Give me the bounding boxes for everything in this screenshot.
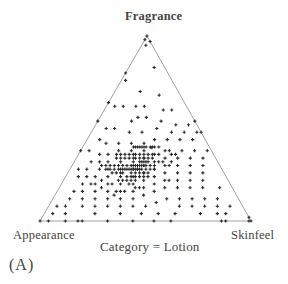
data-point-marker [216, 212, 219, 215]
data-point-marker [77, 168, 80, 171]
data-point-marker [134, 186, 137, 189]
data-point-marker [201, 171, 204, 174]
data-point-marker [104, 142, 107, 145]
data-point-marker [113, 168, 116, 171]
data-point-marker [155, 127, 158, 130]
data-point-marker [134, 145, 137, 148]
data-point-marker [149, 40, 152, 43]
data-point-marker [170, 153, 173, 156]
data-point-marker [157, 212, 160, 215]
data-point-marker [139, 90, 142, 93]
data-point-marker [125, 164, 128, 167]
data-point-marker [174, 153, 177, 156]
data-point-marker [165, 197, 168, 200]
data-point-marker [119, 153, 122, 156]
data-point-marker [106, 219, 109, 222]
data-point-marker [157, 153, 160, 156]
data-point-marker [176, 157, 179, 160]
data-point-marker [144, 205, 147, 208]
data-point-marker [119, 182, 122, 185]
data-point-marker [142, 171, 145, 174]
data-point-marker [224, 212, 227, 215]
data-point-marker [163, 186, 166, 189]
data-point-marker [119, 175, 122, 178]
data-point-marker [104, 168, 107, 171]
data-point-marker [130, 171, 133, 174]
data-point-marker [162, 108, 165, 111]
data-point-marker [64, 219, 67, 222]
data-point-marker [132, 153, 135, 156]
data-point-marker [100, 179, 103, 182]
data-point-marker [115, 153, 118, 156]
data-point-marker [108, 168, 111, 171]
data-point-marker [166, 138, 169, 141]
data-point-marker [94, 190, 97, 193]
data-point-marker [81, 219, 84, 222]
data-point-marker [106, 197, 109, 200]
data-point-marker [224, 219, 227, 222]
data-point-marker [146, 171, 149, 174]
data-point-marker [220, 219, 223, 222]
data-point-marker [201, 164, 204, 167]
data-point-marker [190, 205, 193, 208]
data-point-marker [124, 71, 127, 74]
data-point-marker [138, 171, 141, 174]
data-point-marker [90, 160, 93, 163]
data-point-marker [112, 194, 115, 197]
data-point-marker [131, 219, 134, 222]
data-point-marker [147, 153, 150, 156]
data-point-marker [85, 175, 88, 178]
data-point-marker [119, 157, 122, 160]
data-point-marker [140, 212, 143, 215]
data-point-marker [189, 179, 192, 182]
data-point-marker [228, 205, 231, 208]
data-point-marker [131, 197, 134, 200]
data-point-marker [127, 182, 130, 185]
data-point-marker [153, 160, 156, 163]
data-point-marker [128, 157, 131, 160]
data-point-marker [145, 116, 148, 119]
data-point-marker [107, 101, 110, 104]
data-point-marker [125, 175, 128, 178]
data-point-marker [64, 212, 67, 215]
data-point-marker [199, 131, 202, 134]
data-point-marker [138, 168, 141, 171]
data-point-marker [178, 138, 181, 141]
data-point-marker [142, 149, 145, 152]
data-point-marker [218, 186, 221, 189]
data-point-marker [98, 160, 101, 163]
data-point-marker [191, 197, 194, 200]
data-point-marker [142, 142, 145, 145]
data-point-marker [119, 212, 122, 215]
data-point-marker [108, 164, 111, 167]
data-point-marker [106, 205, 109, 208]
data-point-marker [127, 168, 130, 171]
data-point-marker [201, 157, 204, 160]
data-point-marker [81, 205, 84, 208]
data-point-marker [138, 186, 141, 189]
data-point-marker [159, 120, 162, 123]
ternary-plot [0, 0, 288, 284]
data-point-marker [199, 212, 202, 215]
data-point-marker [123, 153, 126, 156]
data-point-marker [123, 190, 126, 193]
data-point-marker [88, 149, 91, 152]
data-point-marker [113, 127, 116, 130]
data-point-marker [115, 157, 118, 160]
data-point-marker [201, 179, 204, 182]
data-point-marker [138, 175, 141, 178]
data-point-marker [115, 171, 118, 174]
data-point-marker [143, 105, 146, 108]
data-point-marker [147, 157, 150, 160]
data-point-marker [93, 212, 96, 215]
data-point-marker [134, 175, 137, 178]
data-point-marker [130, 142, 133, 145]
data-point-marker [98, 138, 101, 141]
data-point-marker [38, 219, 41, 222]
data-point-marker [189, 164, 192, 167]
data-point-marker [153, 182, 156, 185]
data-point-marker [68, 197, 71, 200]
data-point-marker [117, 142, 120, 145]
data-point-marker [153, 175, 156, 178]
data-point-marker [117, 179, 120, 182]
